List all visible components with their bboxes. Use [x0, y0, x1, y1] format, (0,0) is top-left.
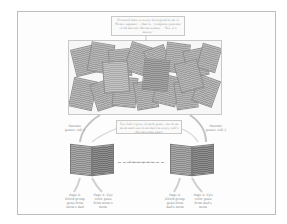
book-right-page — [192, 144, 214, 176]
right-arrow-label: Parents' genes: cell 2 — [205, 124, 227, 132]
book-left-page — [70, 144, 92, 176]
mid-callout: Two full copies of each gene, one from m… — [116, 120, 182, 134]
page-image — [102, 60, 130, 94]
left-arrow-label: Parents' genes: cell 1 — [64, 124, 86, 132]
left-chromosome-book — [70, 145, 114, 175]
bottom-label: Page X: Eye color gene from dad's mom — [192, 193, 214, 209]
bottom-label: Page X: Eye color gene from mom's mom — [92, 193, 114, 209]
center-arrow-label: ← Same sequence → — [121, 160, 161, 164]
bottom-label: Page X: Blood group gene from dad's mom — [164, 193, 186, 209]
bottom-label: Page X: Blood group gene from mom's dad — [64, 193, 86, 209]
book-left-page — [170, 144, 192, 176]
book-right-page — [92, 144, 114, 176]
genome-page-pile — [68, 40, 222, 115]
right-chromosome-book — [170, 145, 214, 175]
page-image — [142, 58, 171, 92]
top-callout: Pictured here is every biological book o… — [111, 16, 185, 36]
